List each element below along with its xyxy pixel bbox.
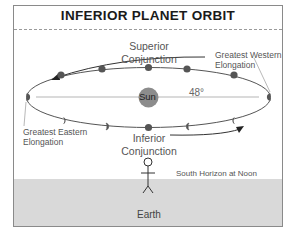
planet-western-elongation-icon — [267, 94, 271, 101]
leader-line-eastern — [24, 102, 26, 126]
inferior-conjunction-label: Inferior Conjunction — [108, 132, 190, 158]
angle-label: 48° — [189, 88, 204, 98]
orbit-diagram — [0, 0, 301, 240]
earth-label: Earth — [137, 210, 161, 220]
planet-full-4-icon — [230, 71, 237, 78]
planet-eastern-elongation-icon — [27, 94, 31, 101]
planet-crescent-2-icon — [106, 123, 109, 130]
planet-full-3-icon — [183, 65, 190, 72]
planet-crescent-3-icon — [186, 123, 189, 130]
observer-figure-icon — [141, 158, 155, 193]
planet-crescent-1-icon — [62, 117, 66, 124]
superior-conjunction-label: Superior Conjunction — [108, 40, 190, 66]
horizon-label: South Horizon at Noon — [176, 169, 257, 179]
planet-full-1-icon — [57, 71, 64, 78]
planet-inferior-conjunction-icon — [145, 124, 152, 131]
greatest-western-elongation-label: Greatest Western Elongation — [215, 50, 281, 70]
greatest-eastern-elongation-label: Greatest Eastern Elongation — [23, 127, 87, 147]
sun-label: Sun — [139, 92, 156, 102]
planet-full-2-icon — [98, 65, 105, 72]
